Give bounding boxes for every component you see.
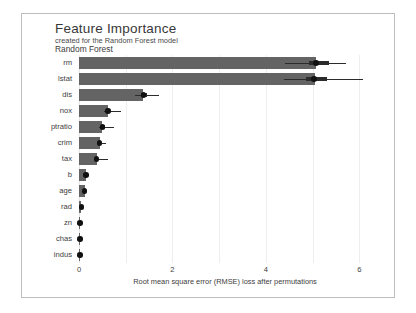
y-tick-chas: chas <box>22 235 72 243</box>
page-title: Feature Importance <box>55 22 178 36</box>
box-rm <box>309 61 330 66</box>
plot-area <box>79 55 371 263</box>
panel-label: Random Forest <box>55 45 178 54</box>
median-point-ptratio <box>100 124 105 129</box>
y-tick-rad: rad <box>22 203 72 211</box>
median-point-nox <box>105 108 110 113</box>
y-tick-indus: indus <box>22 251 72 259</box>
y-tick-zn: zn <box>22 219 72 227</box>
chart-frame: Feature Importance created for the Rando… <box>21 13 395 298</box>
y-tick-rm: rm <box>22 59 72 67</box>
bar-series <box>79 55 371 263</box>
median-point-dis <box>141 92 146 97</box>
bar-dis <box>79 89 143 101</box>
bar-rm <box>79 57 316 69</box>
median-point-tax <box>94 156 99 161</box>
title-block: Feature Importance created for the Rando… <box>55 22 178 54</box>
median-point-chas <box>77 236 82 241</box>
median-point-rm <box>313 60 318 65</box>
median-point-rad <box>79 204 84 209</box>
y-tick-age: age <box>22 187 72 195</box>
y-tick-dis: dis <box>22 91 72 99</box>
median-point-zn <box>77 220 82 225</box>
y-tick-ptratio: ptratio <box>22 123 72 131</box>
median-point-age <box>82 188 87 193</box>
median-point-crim <box>97 140 102 145</box>
median-point-b <box>83 172 88 177</box>
median-point-indus <box>77 252 82 257</box>
y-tick-b: b <box>22 171 72 179</box>
x-axis-tick-labels: 0246 <box>79 265 371 277</box>
median-point-lstat <box>311 76 316 81</box>
whisker-dis <box>135 95 159 96</box>
bar-lstat <box>79 73 315 85</box>
x-tick-4: 4 <box>264 265 268 274</box>
x-axis-title: Root mean square error (RMSE) loss after… <box>79 277 371 286</box>
x-tick-0: 0 <box>77 265 81 274</box>
y-tick-lstat: lstat <box>22 75 72 83</box>
y-tick-nox: nox <box>22 107 72 115</box>
x-tick-6: 6 <box>357 265 361 274</box>
y-tick-crim: crim <box>22 139 72 147</box>
x-tick-2: 2 <box>170 265 174 274</box>
y-tick-tax: tax <box>22 155 72 163</box>
y-axis-tick-labels: rmlstatdisnoxptratiocrimtaxbageradznchas… <box>22 55 76 263</box>
